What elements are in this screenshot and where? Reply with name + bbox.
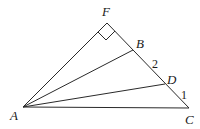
length-bd: 2 (152, 57, 158, 71)
length-dc: 1 (181, 88, 187, 102)
right-angle-marker (98, 31, 115, 40)
label-d: D (166, 72, 177, 87)
geometry-diagram: F B D A C 2 1 (0, 0, 200, 129)
segment-ac (23, 107, 189, 108)
label-b: B (136, 36, 144, 51)
label-c: C (185, 112, 194, 127)
segment-af (23, 23, 107, 107)
label-f: F (101, 4, 111, 19)
segment-fc (107, 23, 189, 108)
label-a: A (9, 108, 18, 123)
